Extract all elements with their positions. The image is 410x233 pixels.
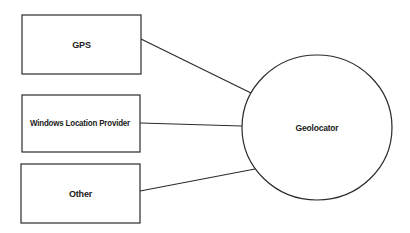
gps-label: GPS bbox=[72, 40, 91, 50]
windows-location-provider-label: Windows Location Provider bbox=[30, 118, 131, 128]
edge-other-to-geolocator bbox=[140, 169, 255, 191]
node-windows-location-provider: Windows Location Provider bbox=[22, 95, 140, 152]
node-geolocator: Geolocator bbox=[242, 55, 392, 200]
edge-gps-to-geolocator bbox=[141, 39, 251, 93]
geolocator-label: Geolocator bbox=[296, 123, 340, 133]
edge-windows-location-provider-to-geolocator bbox=[140, 123, 242, 126]
node-gps: GPS bbox=[22, 15, 141, 74]
other-label: Other bbox=[69, 189, 93, 199]
geolocation-diagram: GPS Windows Location Provider Other Geol… bbox=[0, 0, 410, 233]
node-other: Other bbox=[21, 164, 140, 223]
